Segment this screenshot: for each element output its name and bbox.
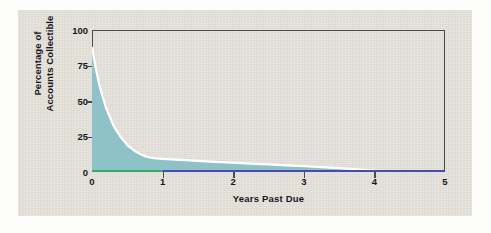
- x-tick-label-1: 1: [151, 176, 175, 187]
- area-chart-plot: [92, 30, 445, 172]
- y-tick-label-50: 50: [42, 96, 88, 107]
- y-tick-label-100: 100: [42, 25, 88, 36]
- chart-figure: Percentage of Accounts Collectible 100 7…: [0, 0, 491, 233]
- x-tick-label-3: 3: [292, 176, 316, 187]
- x-tick-label-0: 0: [80, 176, 104, 187]
- y-axis-ticks: 100 75 50 25 0: [40, 0, 88, 233]
- y-tick-label-25: 25: [42, 131, 88, 142]
- x-tick-label-2: 2: [221, 176, 245, 187]
- curve-line: [92, 47, 396, 172]
- x-axis-title: Years Past Due: [92, 193, 445, 204]
- y-tick-label-75: 75: [42, 60, 88, 71]
- x-tick-label-4: 4: [362, 176, 386, 187]
- x-tick-label-5: 5: [433, 176, 457, 187]
